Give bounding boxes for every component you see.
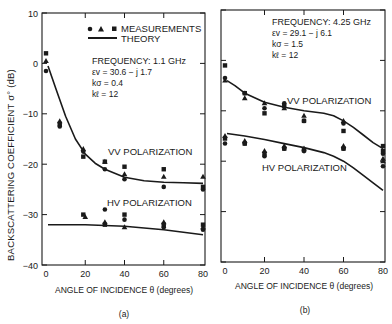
square-marker-icon — [381, 144, 385, 148]
x-tick-label: 0 — [43, 269, 48, 279]
panel-b-frequency: FREQUENCY: 4.25 GHz — [272, 17, 372, 27]
legend-theory: THEORY — [121, 33, 161, 44]
square-marker-icon — [223, 136, 227, 140]
triangle-marker-icon — [43, 58, 49, 63]
square-marker-icon — [81, 212, 85, 216]
x-tick-label: 40 — [119, 269, 129, 279]
square-marker-icon — [201, 222, 205, 226]
x-tick-label: 80 — [198, 269, 208, 279]
square-marker-icon — [162, 222, 166, 226]
triangle-marker-icon — [161, 174, 167, 179]
x-tick-label: 60 — [159, 269, 169, 279]
panel-b-chart: 020406080 FREQUENCY: 4.25 GHz εv = 29.1 … — [221, 10, 388, 315]
square-marker-icon — [302, 119, 306, 123]
circle-marker-icon — [262, 106, 267, 111]
circle-marker-icon — [122, 177, 127, 182]
panel-b-ksigma: kσ = 1.5 — [272, 39, 303, 49]
x-tick-label: 20 — [80, 269, 90, 279]
x-tick-label: 20 — [259, 266, 269, 276]
panel-b-kl: kℓ = 12 — [272, 50, 298, 60]
panel-a-frequency: FREQUENCY: 1.1 GHz — [92, 56, 187, 66]
square-marker-icon — [243, 91, 247, 95]
square-marker-icon — [44, 51, 48, 55]
square-marker-icon — [223, 63, 227, 67]
panel-b-vv-label: VV POLARIZATION — [287, 95, 371, 106]
square-marker-icon — [122, 165, 126, 169]
panel-a-vv-label: VV POLARIZATION — [108, 146, 192, 157]
y-tick-label: −40 — [23, 261, 38, 271]
triangle-marker-icon — [242, 95, 248, 100]
x-tick-label: 0 — [222, 266, 227, 276]
figure: BACKSCATTERING COEFFICIENT σ° (dB) 100−1… — [0, 0, 392, 324]
y-tick-label: 10 — [28, 9, 38, 19]
triangle-marker-icon — [98, 26, 104, 32]
panel-a-caption: (a) — [119, 309, 130, 319]
square-marker-icon — [302, 148, 306, 152]
square-marker-icon — [162, 167, 166, 171]
panel-b-epsilon: εv = 29.1 − j 6.1 — [272, 28, 332, 38]
square-marker-icon — [103, 159, 107, 163]
circle-marker-icon — [381, 164, 386, 169]
panel-a-x-axis-label: ANGLE OF INCIDENCE θ (degrees) — [55, 285, 193, 295]
circle-marker-icon — [161, 185, 166, 190]
circle-marker-icon — [88, 27, 93, 32]
square-marker-icon — [103, 222, 107, 226]
figure-canvas: BACKSCATTERING COEFFICIENT σ° (dB) 100−1… — [0, 0, 392, 324]
square-marker-icon — [282, 104, 286, 108]
theory-curve — [227, 81, 383, 149]
y-axis-label: BACKSCATTERING COEFFICIENT σ° (dB) — [5, 69, 16, 261]
y-tick-label: −30 — [23, 210, 38, 220]
square-marker-icon — [58, 122, 62, 126]
square-marker-icon — [201, 185, 205, 189]
y-tick-label: −10 — [23, 109, 38, 119]
circle-marker-icon — [44, 69, 49, 74]
x-tick-label: 60 — [338, 266, 348, 276]
square-marker-icon — [112, 27, 117, 32]
square-marker-icon — [282, 146, 286, 150]
panel-b-measurement-points — [222, 63, 386, 168]
panel-a-ksigma: kσ = 0.4 — [92, 78, 123, 88]
square-marker-icon — [243, 141, 247, 145]
x-tick-label: 40 — [299, 266, 309, 276]
panel-a-kl: kℓ = 12 — [92, 89, 118, 99]
panel-b-x-axis-label: ANGLE OF INCIDENCE θ (degrees) — [235, 281, 373, 291]
square-marker-icon — [81, 154, 85, 158]
square-marker-icon — [262, 151, 266, 155]
triangle-marker-icon — [122, 171, 128, 176]
panel-a-chart: 100−10−20−30−40 020406080 MEASUREMENTS T… — [23, 9, 208, 320]
circle-marker-icon — [103, 167, 108, 172]
square-marker-icon — [262, 111, 266, 115]
y-tick-label: 0 — [33, 59, 38, 69]
panel-a-hv-label: HV POLARIZATION — [107, 197, 192, 208]
square-marker-icon — [341, 129, 345, 133]
panel-a-epsilon: εv = 30.6 − j 1.7 — [92, 67, 152, 77]
square-marker-icon — [122, 212, 126, 216]
triangle-marker-icon — [301, 113, 307, 118]
circle-marker-icon — [122, 217, 127, 222]
panel-b-hv-label: HV POLARIZATION — [262, 162, 347, 173]
y-tick-label: −20 — [23, 160, 38, 170]
square-marker-icon — [341, 146, 345, 150]
x-tick-label: 80 — [378, 266, 388, 276]
panel-b-caption: (b) — [300, 305, 311, 315]
circle-marker-icon — [223, 141, 228, 146]
square-marker-icon — [381, 149, 385, 153]
legend: MEASUREMENTS THEORY — [88, 23, 202, 44]
